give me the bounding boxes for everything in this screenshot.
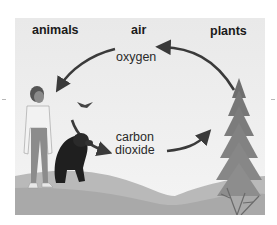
scene-illustration	[15, 18, 265, 215]
carbon-dioxide-line2: dioxide	[115, 144, 155, 157]
air-heading: air	[131, 24, 146, 37]
oxygen-label: oxygen	[116, 51, 156, 64]
animals-heading: animals	[32, 24, 79, 37]
left-edge-mark	[2, 99, 6, 100]
carbon-dioxide-label: carbon dioxide	[115, 131, 155, 157]
plants-heading: plants	[210, 25, 247, 38]
oxygen-carbon-cycle-diagram: animals air plants oxygen carbon dioxide	[15, 18, 265, 215]
right-edge-mark	[271, 99, 275, 100]
